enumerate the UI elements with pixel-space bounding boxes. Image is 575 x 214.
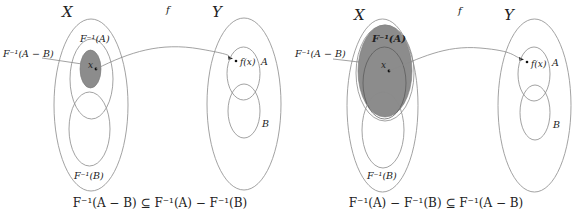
left-label-preimage-B: F⁻¹(B) bbox=[73, 170, 104, 181]
left-label-x: x bbox=[88, 60, 93, 70]
right-label-preimage-B: F⁻¹(B) bbox=[366, 170, 397, 181]
right-leader-line bbox=[333, 59, 359, 62]
left-point-fx bbox=[235, 60, 238, 63]
right-set-B bbox=[520, 85, 550, 140]
right-label-B: B bbox=[552, 119, 560, 130]
right-label-X: X bbox=[353, 6, 366, 24]
left-set-X bbox=[54, 19, 128, 191]
left-panel: X F⁻¹(A) F⁻¹(B) F⁻¹(A − B) x f Y f(x) A … bbox=[2, 3, 281, 210]
right-set-Y bbox=[498, 19, 571, 192]
left-label-X: X bbox=[61, 3, 74, 21]
left-label-B: B bbox=[261, 118, 269, 129]
right-caption: F⁻¹(A) − F⁻¹(B) ⊆ F⁻¹(A − B) bbox=[349, 196, 524, 210]
right-point-fx bbox=[526, 61, 529, 64]
left-label-preimage-A-minus-B: F⁻¹(A − B) bbox=[2, 48, 54, 59]
left-label-A: A bbox=[260, 56, 268, 67]
left-set-Y bbox=[207, 18, 281, 190]
diagram-canvas: X F⁻¹(A) F⁻¹(B) F⁻¹(A − B) x f Y f(x) A … bbox=[0, 0, 575, 214]
right-label-A: A bbox=[551, 57, 559, 68]
left-preimage-B bbox=[69, 92, 110, 166]
left-label-f: f bbox=[165, 4, 172, 15]
left-leader-line bbox=[42, 58, 82, 64]
right-label-Y: Y bbox=[504, 6, 516, 24]
right-label-x: x bbox=[381, 60, 386, 70]
right-label-f: f bbox=[457, 5, 464, 16]
left-label-fx: f(x) bbox=[239, 57, 256, 67]
right-label-preimage-A-minus-B: F⁻¹(A − B) bbox=[294, 48, 346, 59]
left-label-preimage-A: F⁻¹(A) bbox=[79, 33, 110, 44]
left-set-B bbox=[228, 84, 260, 138]
right-label-preimage-A: F⁻¹(A) bbox=[371, 33, 406, 44]
right-label-fx: f(x) bbox=[530, 59, 547, 69]
left-label-Y: Y bbox=[212, 3, 224, 21]
left-caption: F⁻¹(A − B) ⊆ F⁻¹(A) − F⁻¹(B) bbox=[73, 196, 248, 210]
right-panel: X F⁻¹(A) F⁻¹(B) F⁻¹(A − B) x f Y f(x) A … bbox=[294, 5, 571, 210]
